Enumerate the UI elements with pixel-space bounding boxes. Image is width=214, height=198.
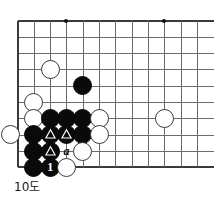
go-board[interactable]: 1 a	[0, 0, 214, 178]
black-stone[interactable]	[73, 76, 92, 95]
grid-line-vertical	[148, 21, 149, 168]
white-stone[interactable]	[73, 142, 92, 161]
white-stone[interactable]	[41, 60, 60, 79]
grid-line-vertical	[164, 21, 165, 168]
grid-line-vertical	[132, 21, 133, 168]
grid-line-vertical	[17, 21, 19, 168]
grid-line-vertical	[197, 21, 198, 168]
white-stone[interactable]	[90, 125, 109, 144]
white-stone[interactable]	[57, 158, 76, 177]
point-label-a: a	[57, 142, 76, 161]
grid-line-vertical	[99, 21, 100, 168]
white-stone[interactable]	[155, 109, 174, 128]
diagram-caption: 10도	[14, 177, 40, 194]
go-diagram-figure: 1 a 10도	[0, 0, 214, 198]
grid-line-vertical	[181, 21, 182, 168]
grid-line-vertical	[115, 21, 116, 168]
